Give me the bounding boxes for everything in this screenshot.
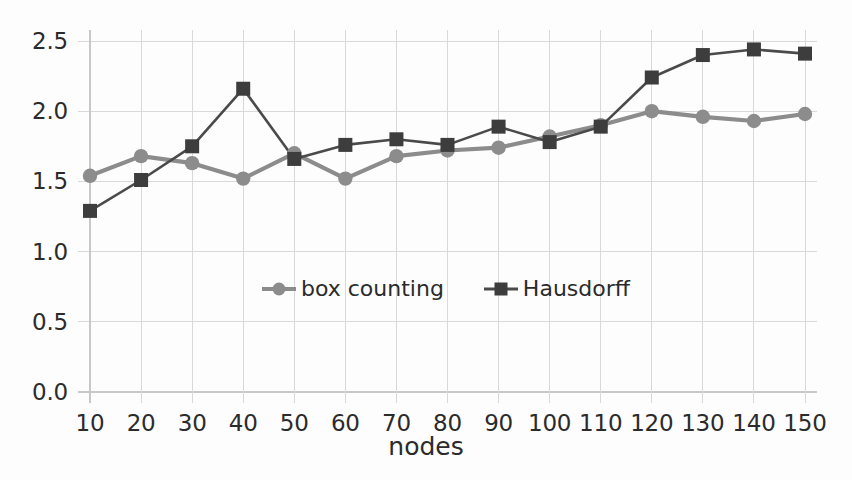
- legend-marker-square-icon: [484, 281, 518, 297]
- legend-entry-hausdorff[interactable]: Hausdorff: [484, 276, 630, 301]
- plot-area: [0, 0, 852, 480]
- legend-entry-box-counting[interactable]: box counting: [262, 276, 444, 301]
- x-axis-title: nodes: [0, 432, 852, 461]
- chart-legend: box counting Hausdorff: [262, 276, 630, 301]
- fractal-dimension-line-chart: 0.00.51.01.52.02.5 102030405060708090100…: [0, 0, 852, 480]
- y-tick-label: 0.0: [32, 379, 68, 405]
- legend-label-box-counting: box counting: [301, 276, 444, 301]
- grid-layer: [78, 30, 817, 403]
- y-tick-label: 2.5: [32, 28, 68, 54]
- y-tick-label: 0.5: [32, 309, 68, 335]
- y-tick-label: 2.0: [32, 98, 68, 124]
- legend-marker-circle-icon: [262, 281, 296, 297]
- y-tick-label: 1.0: [32, 239, 68, 265]
- y-tick-label: 1.5: [32, 168, 68, 194]
- legend-label-hausdorff: Hausdorff: [523, 276, 630, 301]
